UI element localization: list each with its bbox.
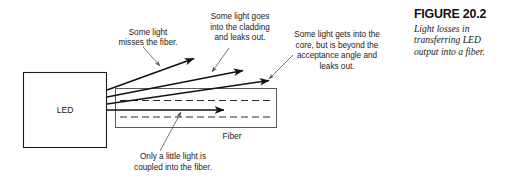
figure-page: LED Fiber Some light misses the fiber. S…	[0, 0, 510, 182]
annotation-line: Some light gets into the	[294, 30, 380, 39]
annotation-line: acceptance angle and	[297, 51, 378, 60]
ray-misses-fiber	[107, 59, 194, 91]
annotation-line: Only a little light is	[140, 152, 206, 161]
annotation-line: and leaks out.	[215, 33, 266, 42]
fiber-label: Fiber	[222, 131, 241, 141]
annotation-line: Some light	[129, 28, 168, 37]
annotation-beyond-acceptance-angle: Some light gets into the core, but is be…	[294, 30, 380, 71]
leader-beyond-acceptance-angle	[269, 55, 293, 79]
figure-caption-block: FIGURE 20.2 Light losses in transferring…	[414, 8, 506, 57]
led-label: LED	[57, 105, 74, 115]
annotation-cladding-leak: Some light goes into the cladding and le…	[210, 12, 270, 42]
annotation-misses-fiber: Some light misses the fiber.	[118, 28, 177, 48]
annotation-line: coupled into the fiber.	[134, 163, 212, 172]
annotation-line: core, but is beyond the	[296, 41, 379, 50]
figure-caption-text: Light losses in transferring LED output …	[414, 23, 506, 57]
fiber-cladding-rect	[116, 89, 277, 128]
annotation-coupled-into-fiber: Only a little light is coupled into the …	[134, 152, 212, 172]
annotation-line: Some light goes	[211, 12, 270, 21]
figure-number-heading: FIGURE 20.2	[414, 8, 506, 21]
annotation-line: misses the fiber.	[118, 38, 177, 47]
annotation-line: leaks out.	[319, 62, 354, 71]
annotation-line: into the cladding	[210, 23, 270, 32]
leader-cladding-leak	[212, 48, 229, 72]
leader-misses-fiber	[143, 47, 160, 66]
